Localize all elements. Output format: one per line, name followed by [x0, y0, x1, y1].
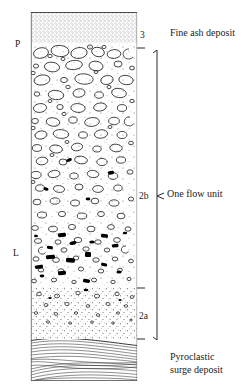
unit-label-3: 3: [140, 30, 145, 40]
stratigraphic-column-figure: 3 2b 2a P L Fine ash deposit One flow un…: [0, 0, 252, 391]
layer-surge-deposit: [31, 338, 137, 381]
side-label-pumice-zone: P: [15, 39, 20, 49]
unit-label-2a: 2a: [139, 311, 148, 321]
layer-fine-ash: [31, 12, 137, 43]
description-surge-line2: surge deposit: [170, 364, 223, 375]
description-surge-line1: Pyroclastic: [170, 351, 214, 362]
layer-2a-basal: [31, 288, 137, 339]
unit-label-2b: 2b: [139, 191, 149, 201]
description-surge-deposit: Pyroclasticsurge deposit: [170, 351, 223, 376]
side-label-lithic-zone: L: [13, 248, 19, 258]
flow-unit-bracket: [153, 50, 164, 340]
description-one-flow-unit: One flow unit: [167, 189, 223, 200]
description-fine-ash: Fine ash deposit: [170, 28, 235, 39]
layer-2b-pumice-flow: [31, 43, 137, 288]
